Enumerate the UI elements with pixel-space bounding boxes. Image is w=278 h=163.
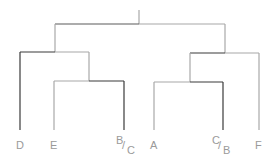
leaf-label-cb: C / B <box>212 135 234 161</box>
leaf-label-d: D <box>16 140 24 151</box>
leaf-label-bc-slash: / <box>122 140 125 151</box>
leaf-label-f: F <box>255 140 262 151</box>
leaf-label-e: E <box>50 140 57 151</box>
dendrogram <box>0 0 278 163</box>
leaf-label-bc: B / C <box>116 135 138 161</box>
leaf-label-a: A <box>150 140 157 151</box>
leaf-label-bc-den: C <box>127 145 135 156</box>
leaf-label-cb-den: B <box>223 145 230 156</box>
leaf-label-cb-slash: / <box>218 140 221 151</box>
